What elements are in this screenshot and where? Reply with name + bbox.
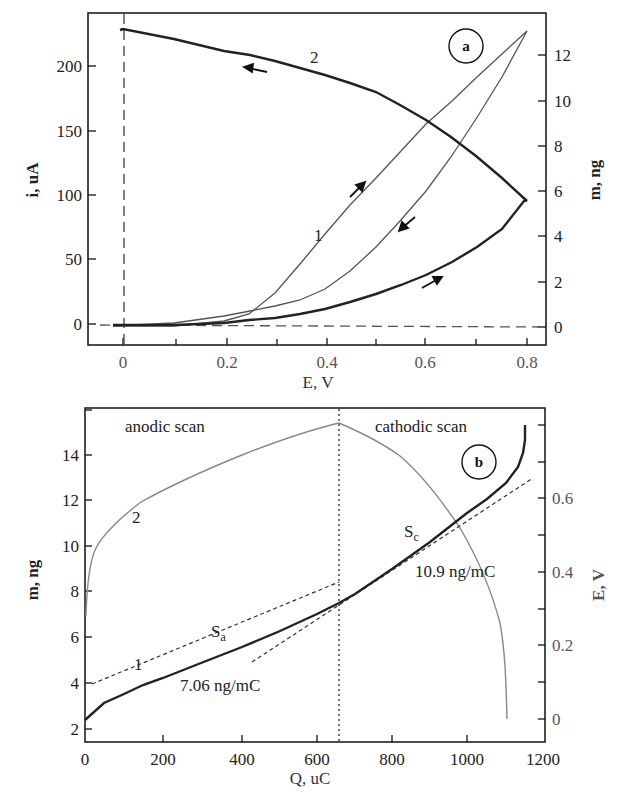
tick-label: 0 xyxy=(81,750,90,769)
tick-label: 6 xyxy=(71,628,80,647)
tick-label: 0.4 xyxy=(316,353,338,372)
tick-label: 1200 xyxy=(526,750,560,769)
slope-value-a: 7.06 ng/mC xyxy=(180,676,260,695)
tick-label: 0.8 xyxy=(516,353,537,372)
tick-label: 10 xyxy=(62,537,79,556)
panel-a-right-axis-title: m, ng xyxy=(585,159,604,200)
tick-label: 50 xyxy=(65,250,82,269)
tick-label: 12 xyxy=(554,46,571,65)
tick-label: 0.4 xyxy=(552,563,574,582)
tick-label: 0 xyxy=(552,710,561,729)
panel-b-label: b xyxy=(475,454,483,470)
panel-a-x-axis-title: E, V xyxy=(303,373,335,392)
tick-label: 0.2 xyxy=(216,353,237,372)
slope-label-sa: Sa xyxy=(211,622,226,644)
panel-b-bottom-tick-labels: 0 200 400 600 800 1000 1200 xyxy=(81,750,560,769)
panel-a: 0 50 100 150 200 i, uA 0 2 4 6 8 10 12 m… xyxy=(23,13,604,392)
curve-label-1: 1 xyxy=(134,655,143,674)
tick-label: 800 xyxy=(379,750,405,769)
scan-direction-arrows xyxy=(244,64,442,288)
panel-a-right-ticks xyxy=(538,55,546,327)
panel-a-bottom-ticks xyxy=(123,338,527,345)
curve-label-2: 2 xyxy=(132,508,141,527)
panel-b-right-axis-title: E, V xyxy=(589,568,608,601)
tick-label: 2 xyxy=(554,273,563,292)
anodic-scan-label: anodic scan xyxy=(125,417,205,436)
tick-label: 6 xyxy=(554,182,563,201)
tick-label: 8 xyxy=(554,137,563,156)
tick-label: 2 xyxy=(71,720,80,739)
panel-b-x-axis-title: Q, uC xyxy=(290,769,331,788)
panel-b: 2 4 6 8 10 12 14 m, ng 0 0.2 0.4 0.6 E xyxy=(23,408,608,788)
tick-label: 8 xyxy=(71,582,80,601)
tick-label: 400 xyxy=(229,750,255,769)
figure: 0 50 100 150 200 i, uA 0 2 4 6 8 10 12 m… xyxy=(0,0,618,799)
tick-label: 0 xyxy=(74,315,83,334)
tick-label: 4 xyxy=(71,674,80,693)
panel-a-label: a xyxy=(462,38,470,54)
tick-label: 0.2 xyxy=(552,636,573,655)
tick-label: 10 xyxy=(554,92,571,111)
panel-b-bottom-ticks xyxy=(163,735,467,742)
tick-label: 150 xyxy=(57,122,83,141)
panel-b-left-ticks xyxy=(85,410,92,729)
panel-b-left-tick-labels: 2 4 6 8 10 12 14 xyxy=(62,446,80,739)
tick-label: 1000 xyxy=(450,750,484,769)
tick-label: 100 xyxy=(57,186,83,205)
tick-label: 0 xyxy=(554,318,563,337)
curve-2-current-cathodic xyxy=(120,29,527,201)
tick-label: 14 xyxy=(62,446,80,465)
tick-label: 4 xyxy=(554,227,563,246)
slope-label-sc: Sc xyxy=(404,522,419,544)
curve-label-2: 2 xyxy=(310,48,319,67)
cathodic-scan-label: cathodic scan xyxy=(375,417,468,436)
tick-label: 200 xyxy=(57,57,83,76)
tick-label: 0.6 xyxy=(414,353,435,372)
panel-b-right-tick-labels: 0 0.2 0.4 0.6 xyxy=(552,489,574,729)
curve-1-mass-cathodic xyxy=(113,31,527,326)
tick-label: 12 xyxy=(62,491,79,510)
panel-a-left-tick-labels: 0 50 100 150 200 xyxy=(57,57,83,334)
panel-a-right-tick-labels: 0 2 4 6 8 10 12 xyxy=(554,46,571,337)
panel-b-right-ticks xyxy=(538,425,545,719)
slope-value-c: 10.9 ng/mC xyxy=(415,562,495,581)
tick-label: 0 xyxy=(119,353,128,372)
curve-1-mass-anodic xyxy=(113,31,527,326)
tick-label: 600 xyxy=(304,750,330,769)
curve-2-current-anodic xyxy=(113,200,527,325)
panel-a-left-ticks xyxy=(88,66,96,324)
tick-label: 200 xyxy=(150,750,176,769)
panel-a-y-axis-title: i, uA xyxy=(23,162,42,198)
curve-label-1: 1 xyxy=(314,226,323,245)
panel-a-bottom-tick-labels: 0 0.2 0.4 0.6 0.8 xyxy=(119,353,538,372)
tick-label: 0.6 xyxy=(552,489,573,508)
panel-b-y-axis-title: m, ng xyxy=(23,559,42,600)
